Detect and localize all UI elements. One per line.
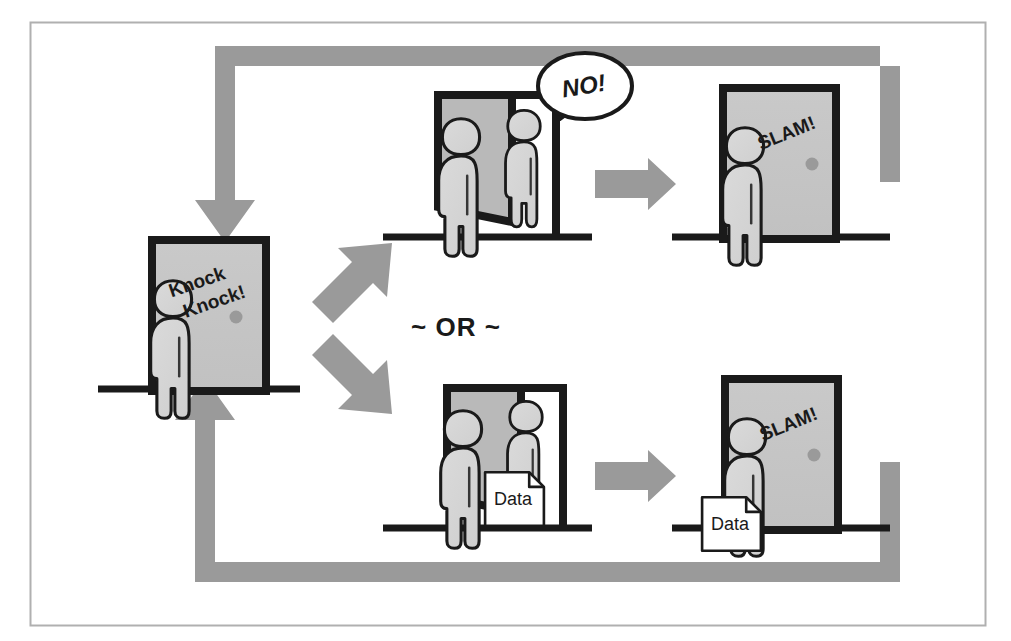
slam-refused-panel: SLAM! (672, 88, 890, 265)
speech-bubble: NO! (538, 53, 632, 119)
refused-panel: NO! (383, 53, 632, 256)
advance-arrow-top (595, 158, 676, 210)
person-gatekeeper (506, 110, 541, 226)
data-document-middle: Data (485, 472, 544, 526)
door-knob-icon (230, 311, 243, 324)
flow-diagram-canvas: Knock Knock! ~ OR ~ (0, 0, 1011, 641)
data-document-right: Data (702, 497, 761, 551)
figure-root: Knock Knock! ~ OR ~ (0, 0, 1011, 641)
door-knob-icon (806, 158, 819, 171)
person-visitor (723, 128, 764, 266)
person-visitor (441, 411, 482, 549)
granted-panel: Data (383, 388, 592, 548)
door-knob-icon (808, 449, 821, 462)
knock-panel: Knock Knock! (98, 240, 300, 418)
slam-granted-panel: SLAM! Data (672, 379, 890, 556)
branch-arrow-down (312, 334, 392, 414)
person-visitor (439, 119, 480, 257)
branch-arrow-up (312, 243, 392, 323)
or-divider-label: ~ OR ~ (411, 312, 501, 342)
advance-arrow-bottom (595, 450, 676, 502)
data-doc-label: Data (711, 514, 750, 534)
data-doc-label: Data (494, 489, 533, 509)
